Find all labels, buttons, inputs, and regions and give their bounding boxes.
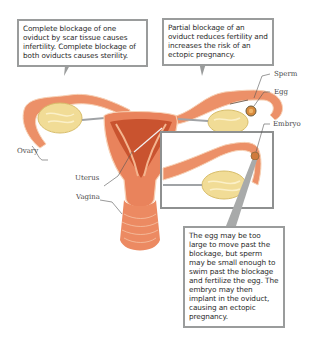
label-egg: Egg <box>274 88 288 96</box>
label-sperm: Sperm <box>274 70 297 78</box>
label-embryo: Embryo <box>273 120 301 128</box>
label-ovary: Ovary <box>17 147 38 155</box>
label-vagina: Vagina <box>76 193 100 201</box>
right-ovary <box>208 110 248 134</box>
left-ovary <box>38 103 82 133</box>
embryo <box>251 152 259 160</box>
callout-complete-blockage: Complete blockage of one oviduct by scar… <box>17 19 148 67</box>
callout-partial-blockage: Partial blockage of an oviduct reduces f… <box>162 18 274 66</box>
callout-ectopic-pregnancy: The egg may be too large to move past th… <box>183 226 285 328</box>
label-uterus: Uterus <box>75 174 99 182</box>
vagina <box>120 200 160 251</box>
